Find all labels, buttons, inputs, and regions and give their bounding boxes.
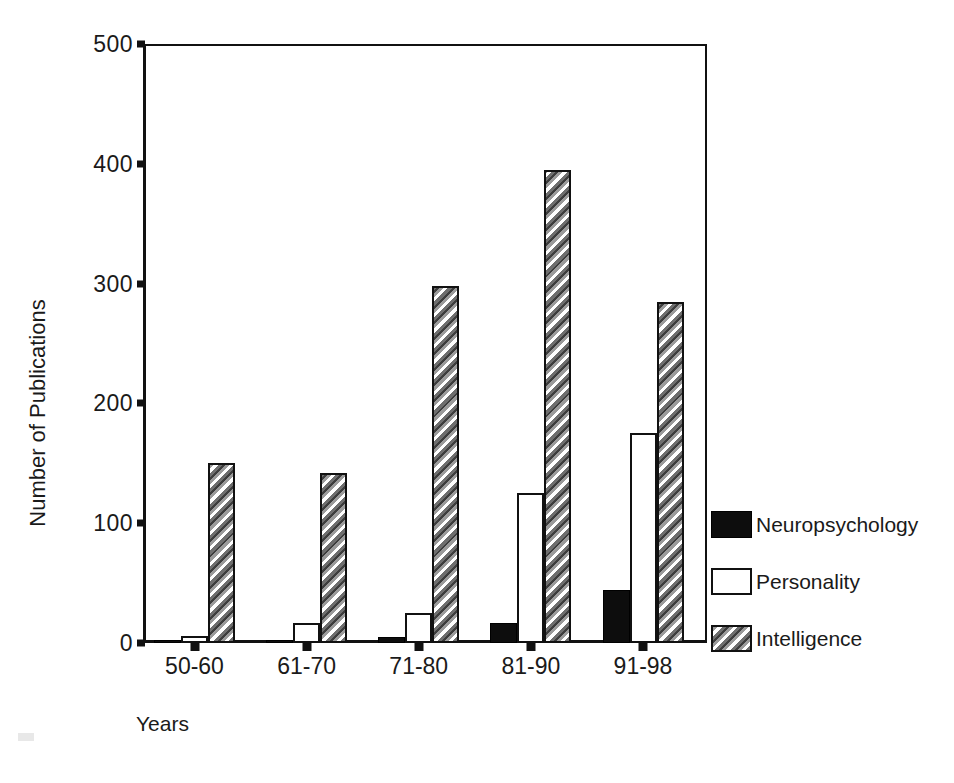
legend-swatch-icon: [711, 511, 752, 538]
legend-label: Neuropsychology: [756, 513, 918, 537]
x-tick-mark: [526, 643, 535, 651]
legend-label: Intelligence: [756, 627, 862, 651]
bar-neuropsychology-91-98: [603, 590, 630, 643]
x-tick-mark: [302, 643, 311, 651]
bar-neuropsychology-81-90: [490, 623, 517, 643]
bar-personality-50-60: [181, 636, 208, 643]
x-tick-mark: [190, 643, 199, 651]
legend-swatch-icon: [711, 568, 752, 595]
bar-personality-91-98: [630, 433, 657, 643]
y-tick-label: 200: [93, 390, 133, 417]
bar-intelligence-61-70: [320, 473, 347, 643]
x-tick-mark: [414, 643, 423, 651]
x-tick-label-50-60: 50-60: [165, 653, 224, 680]
legend-label: Personality: [756, 570, 860, 594]
legend-swatch-icon: [711, 625, 752, 652]
scan-artifact: [18, 733, 34, 741]
bar-neuropsychology-61-70: [266, 640, 293, 643]
bars-layer: [146, 44, 705, 643]
publications-bar-chart: 0100200300400500 50-6061-7071-8081-9091-…: [0, 0, 954, 783]
bar-personality-61-70: [293, 623, 320, 643]
x-tick-label-81-90: 81-90: [501, 653, 560, 680]
legend-item-neuro[interactable]: Neuropsychology: [711, 511, 918, 538]
legend-item-personality[interactable]: Personality: [711, 568, 860, 595]
bar-intelligence-50-60: [208, 463, 235, 643]
bar-neuropsychology-71-80: [378, 637, 405, 643]
y-tick-label: 0: [120, 630, 133, 657]
x-tick-label-61-70: 61-70: [277, 653, 336, 680]
y-tick-label: 400: [93, 150, 133, 177]
bar-neuropsychology-50-60: [154, 640, 181, 643]
y-tick-label: 100: [93, 510, 133, 537]
x-tick-label-91-98: 91-98: [614, 653, 673, 680]
x-axis-title: Years: [136, 712, 189, 736]
bar-intelligence-71-80: [432, 286, 459, 643]
y-tick-label: 300: [93, 270, 133, 297]
bar-intelligence-81-90: [544, 170, 571, 643]
legend-item-intelligence[interactable]: Intelligence: [711, 625, 862, 652]
bar-personality-71-80: [405, 613, 432, 643]
y-tick-label: 500: [93, 31, 133, 58]
y-axis-title: Number of Publications: [25, 283, 51, 543]
bar-personality-81-90: [517, 493, 544, 643]
x-tick-label-71-80: 71-80: [389, 653, 448, 680]
bar-intelligence-91-98: [657, 302, 684, 643]
x-tick-mark: [639, 643, 648, 651]
